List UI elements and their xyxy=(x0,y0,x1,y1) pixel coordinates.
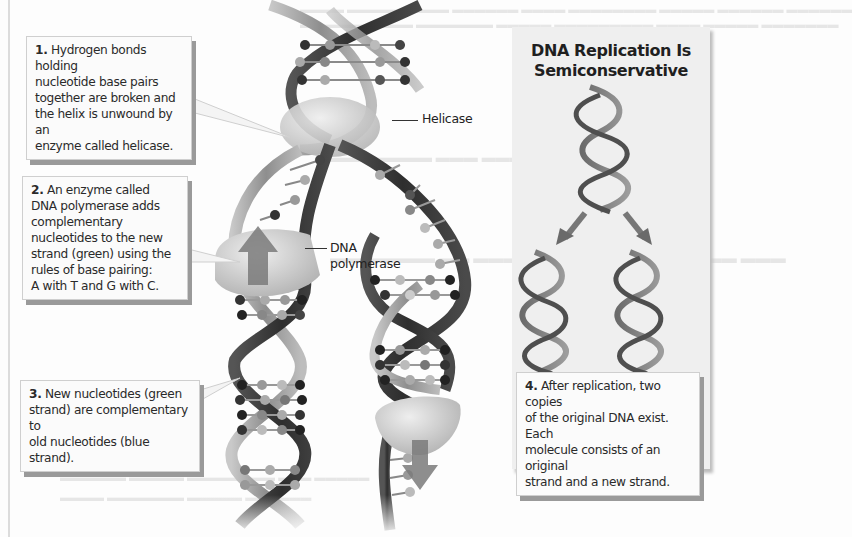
polymerase-label: DNA polymerase xyxy=(330,240,400,272)
polymerase-leader-line xyxy=(305,248,327,249)
semiconservative-diagram xyxy=(521,87,661,374)
callout-line: together are broken and xyxy=(35,90,183,106)
step-number: 2. xyxy=(31,183,43,197)
callout-line: strand (green) using the xyxy=(31,246,179,262)
callout-line: Hydrogen bonds holding xyxy=(35,43,146,73)
step-number: 3. xyxy=(29,387,41,401)
polymerase-label-line: DNA xyxy=(330,240,400,256)
callout-line: strand and a new strand. xyxy=(525,474,691,490)
callout-line: molecule consists of an original xyxy=(525,442,691,474)
helicase-label: Helicase xyxy=(422,111,472,127)
helicase-leader-line xyxy=(392,120,418,121)
callout-step-3: 3. New nucleotides (green strand) are co… xyxy=(20,380,200,472)
callout-step-1: 1. Hydrogen bonds holding nucleotide bas… xyxy=(26,36,192,160)
callout-line: strand) are complementary to xyxy=(29,402,191,434)
callout-line: old nucleotides (blue strand). xyxy=(29,434,191,466)
callout-line: A with T and G with C. xyxy=(31,278,179,294)
right-daughter-helix xyxy=(340,145,465,530)
step-number: 1. xyxy=(35,43,47,57)
callout-step-2: 2. An enzyme called DNA polymerase adds … xyxy=(22,176,188,300)
callout-line: nucleotide base pairs xyxy=(35,74,183,90)
callout-line: rules of base pairing: xyxy=(31,262,179,278)
callout-line: the helix is unwound by an xyxy=(35,106,183,138)
callout-line: DNA polymerase adds xyxy=(31,198,179,214)
left-daughter-helix xyxy=(231,145,330,525)
callout-line: An enzyme called xyxy=(47,183,150,197)
callout-line: New nucleotides (green xyxy=(45,387,182,401)
callout-step-4: 4. After replication, two copies of the … xyxy=(516,372,700,496)
step-number: 4. xyxy=(525,379,537,393)
polymerase-label-line: polymerase xyxy=(330,256,400,272)
callout-line: After replication, two copies xyxy=(525,379,661,409)
callout-line: enzyme called helicase. xyxy=(35,138,183,154)
callout-line: nucleotides to the new xyxy=(31,230,179,246)
callout-line: complementary xyxy=(31,214,179,230)
callout-line: of the original DNA exist. Each xyxy=(525,410,691,442)
